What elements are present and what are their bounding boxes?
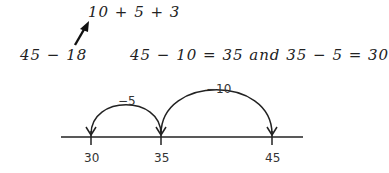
- jump-label-minus-5: −5: [118, 94, 136, 108]
- jump-minus-10: [161, 90, 272, 134]
- jump-label-minus-10: −10: [206, 82, 231, 96]
- tick-label-35: 35: [154, 151, 169, 165]
- arrow-icon: [75, 21, 89, 45]
- tick-label-30: 30: [84, 151, 99, 165]
- tick-label-45: 45: [265, 151, 280, 165]
- jump-minus-5: [91, 105, 161, 134]
